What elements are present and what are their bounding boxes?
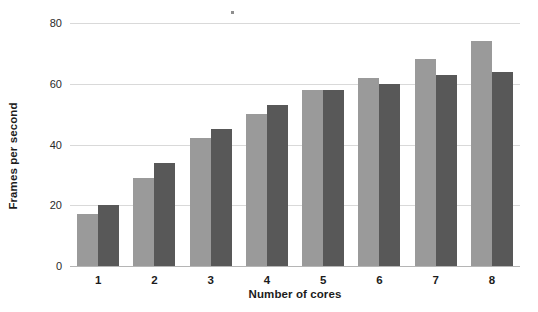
bar-series-b-1 [98, 205, 119, 266]
x-tick-label-5: 5 [295, 274, 351, 286]
y-tick-label-0: 0 [56, 260, 62, 272]
x-tick-label-2: 2 [126, 274, 182, 286]
bar-group-4: 4 [239, 23, 295, 266]
x-tick-label-4: 4 [239, 274, 295, 286]
bar-series-a-5 [302, 90, 323, 266]
bar-group-1: 1 [70, 23, 126, 266]
bar-series-a-7 [415, 59, 436, 266]
x-tick-label-3: 3 [183, 274, 239, 286]
bar-series-a-8 [471, 41, 492, 266]
bar-group-5: 5 [295, 23, 351, 266]
y-tick-label-40: 40 [50, 139, 62, 151]
bar-series-a-1 [77, 214, 98, 266]
y-tick-label-80: 80 [50, 17, 62, 29]
bar-series-b-4 [267, 105, 288, 266]
bar-group-8: 8 [464, 23, 520, 266]
bar-series-a-2 [133, 178, 154, 266]
x-tick-label-1: 1 [70, 274, 126, 286]
plot-area: 020406080 12345678 [70, 23, 520, 266]
y-tick-label-60: 60 [50, 78, 62, 90]
speck-artifact-icon [231, 11, 234, 14]
bar-series-a-4 [246, 114, 267, 266]
x-tick-label-8: 8 [464, 274, 520, 286]
x-tick-label-6: 6 [351, 274, 407, 286]
y-axis-title: Frames per second [0, 0, 26, 312]
bar-series-b-7 [436, 75, 457, 266]
bar-groups: 12345678 [70, 23, 520, 266]
bar-series-a-3 [190, 138, 211, 266]
bar-group-7: 7 [408, 23, 464, 266]
bar-series-a-6 [358, 78, 379, 266]
bar-series-b-6 [379, 84, 400, 266]
gridline-0: 0 [70, 266, 520, 267]
bar-group-6: 6 [351, 23, 407, 266]
x-axis-title: Number of cores [70, 288, 520, 300]
y-tick-label-20: 20 [50, 199, 62, 211]
x-tick-label-7: 7 [408, 274, 464, 286]
bar-series-b-8 [492, 72, 513, 266]
bar-group-3: 3 [183, 23, 239, 266]
bar-series-b-2 [154, 163, 175, 266]
bar-group-2: 2 [126, 23, 182, 266]
bar-chart: Frames per second 020406080 12345678 Num… [0, 0, 538, 312]
bar-series-b-3 [211, 129, 232, 266]
bar-series-b-5 [323, 90, 344, 266]
